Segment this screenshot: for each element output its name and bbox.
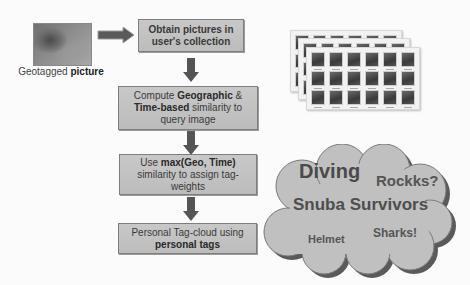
step-assign-tag-weights: Use max(Geo, Time) similarity to assign … (119, 154, 257, 195)
thumbnail-grid (311, 52, 415, 105)
tag-cloud: Diving Rockks? Snuba Survivors Helmet Sh… (260, 144, 460, 280)
arrow-right-icon (97, 27, 135, 43)
photo-collection-layer-front (306, 47, 420, 110)
tag-rockks: Rockks? (376, 172, 439, 189)
arrow-down-icon (183, 58, 199, 82)
geotagged-caption: Geotagged picture (10, 66, 112, 77)
arrow-down-icon (183, 197, 199, 221)
arrow-down-icon (183, 131, 199, 155)
tag-snuba-survivors: Snuba Survivors (293, 195, 428, 215)
tag-sharks: Sharks! (373, 226, 417, 240)
step-personal-tag-cloud: Personal Tag-cloud using personal tags (118, 223, 257, 254)
tag-helmet: Helmet (308, 233, 345, 245)
step-compute-similarity: Compute Geographic & Time-based similari… (118, 86, 258, 130)
step-obtain-pictures: Obtain pictures in user's collection (138, 19, 244, 52)
tag-diving: Diving (299, 160, 360, 183)
geotagged-photo (33, 23, 92, 66)
